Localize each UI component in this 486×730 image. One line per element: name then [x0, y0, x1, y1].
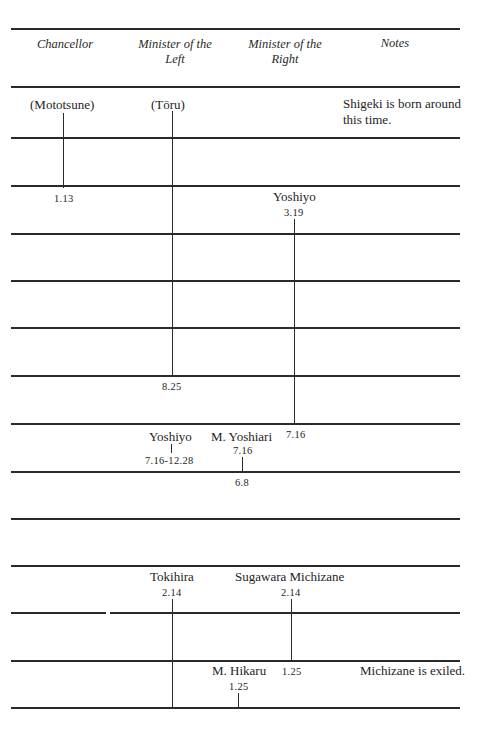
row-rule — [11, 327, 460, 329]
hikaru-start-date: 1.25 — [229, 681, 249, 693]
yoshiyo-right-end-date: 7.16 — [286, 429, 306, 441]
toru-end-date: 8.25 — [162, 381, 182, 393]
header-notes: Notes — [350, 36, 440, 51]
row-rule — [11, 185, 460, 187]
minister-right-hikaru: M. Hikaru — [212, 663, 266, 678]
note-shigeki-line1: Shigeki is born around — [343, 96, 461, 112]
row-rule — [11, 660, 460, 662]
yoshiari-tenure-line — [242, 457, 243, 472]
hikaru-tenure-line — [238, 693, 239, 708]
yoshiari-end-date: 6.8 — [235, 477, 249, 489]
note-shigeki-line2: this time. — [343, 112, 461, 128]
minister-left-tokihira: Tokihira — [150, 569, 194, 584]
yoshiyo-left-dates: 7.16-12.28 — [145, 455, 194, 467]
yoshiyo-left-tenure-line — [171, 444, 172, 453]
yoshiyo-right-tenure-line — [294, 219, 295, 423]
note-michizane-exiled: Michizane is exiled. — [360, 663, 465, 679]
chancellor-mototsune: (Mototsune) — [30, 97, 94, 112]
table-bottom-rule — [11, 707, 460, 709]
header-chancellor-label: Chancellor — [37, 37, 93, 51]
row-rule — [11, 137, 460, 139]
tokihira-start-date: 2.14 — [162, 587, 182, 599]
note-shigeki-birth: Shigeki is born around this time. — [343, 96, 461, 128]
row-rule — [11, 518, 460, 520]
minister-left-toru: (Tōru) — [151, 97, 185, 112]
row-rule — [11, 375, 460, 377]
header-left-line1: Minister of the — [120, 37, 230, 52]
header-minister-left: Minister of the Left — [120, 37, 230, 67]
yoshiari-start-date: 7.16 — [233, 445, 253, 457]
minister-left-yoshiyo: Yoshiyo — [149, 429, 192, 444]
header-right-line2: Right — [230, 52, 340, 67]
row-rule — [11, 612, 460, 614]
header-notes-label: Notes — [381, 36, 409, 50]
header-minister-right: Minister of the Right — [230, 37, 340, 67]
header-right-line1: Minister of the — [230, 37, 340, 52]
row-rule — [11, 565, 460, 567]
table-top-rule — [11, 28, 460, 30]
mototsune-tenure-line — [63, 113, 64, 188]
michizane-end-date: 1.25 — [282, 666, 302, 678]
tokihira-tenure-line — [172, 599, 173, 708]
minister-right-michizane: Sugawara Michizane — [235, 569, 344, 584]
header-left-line2: Left — [120, 52, 230, 67]
minister-right-yoshiyo: Yoshiyo — [273, 189, 316, 204]
yoshiyo-right-start-date: 3.19 — [284, 207, 304, 219]
row-rule — [11, 233, 460, 235]
minister-right-yoshiari: M. Yoshiari — [211, 429, 272, 444]
mototsune-end-date: 1.13 — [54, 193, 74, 205]
header-bottom-rule — [11, 86, 460, 88]
row-rule — [11, 280, 460, 282]
michizane-tenure-line — [291, 599, 292, 661]
toru-tenure-line — [172, 111, 173, 376]
rule-gap — [106, 611, 110, 615]
header-chancellor: Chancellor — [20, 37, 110, 52]
row-rule — [11, 423, 460, 425]
row-rule — [11, 471, 460, 473]
michizane-start-date: 2.14 — [281, 587, 301, 599]
